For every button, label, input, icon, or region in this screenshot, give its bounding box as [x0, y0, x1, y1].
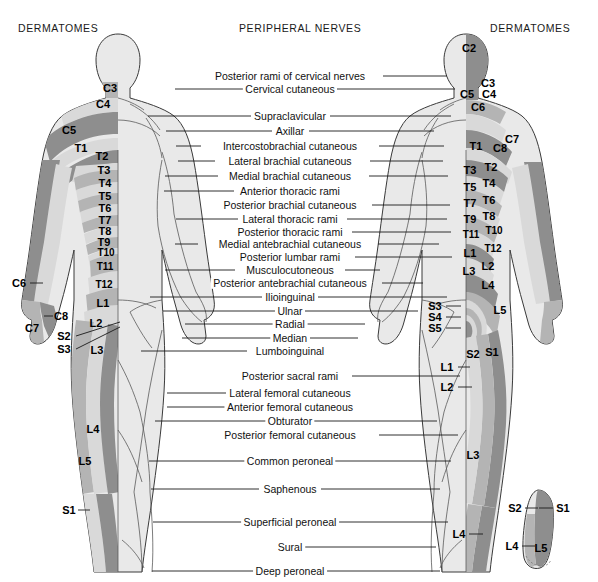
- dermatome-label-left-t3-5: T3: [98, 165, 111, 176]
- nerve-label-obturator: Obturator: [265, 416, 314, 427]
- dermatome-label-right-l1-29: L1: [441, 362, 454, 373]
- dermatome-label-left-t9-11: T9: [98, 237, 111, 248]
- nerve-label-medial-brachial-cutaneous: Medial brachial cutaneous: [227, 171, 354, 182]
- dermatome-label-left-t10-12: T10: [97, 248, 114, 258]
- dermatome-label-right-c5-3: C5: [460, 89, 474, 100]
- dermatome-label-left-l4-23: L4: [87, 424, 100, 435]
- nerve-label-posterior-femoral-cutaneous: Posterior femoral cutaneous: [222, 430, 358, 441]
- nerve-label-posterior-antebrachial-cutaneous: Posterior antebrachial cutaneous: [211, 278, 370, 289]
- nerve-label-lateral-femoral-cutaneous: Lateral femoral cutaneous: [227, 388, 353, 399]
- dermatome-label-left-t4-6: T4: [99, 178, 112, 189]
- dermatome-label-right-l3-20: L3: [463, 266, 476, 277]
- dermatome-label-left-l5-24: L5: [79, 456, 92, 467]
- dermatome-label-right-l4-32: L4: [453, 529, 466, 540]
- dermatome-label-foot-s1-1: S1: [556, 503, 569, 514]
- nerve-label-anterior-thoracic-rami: Anterior thoracic rami: [238, 186, 343, 197]
- nerve-label-cervical-cutaneous: Cervical cutaneous: [243, 84, 337, 95]
- dermatome-label-foot-s2-0: S2: [508, 503, 521, 514]
- dermatome-label-right-t10-17: T10: [485, 226, 502, 236]
- nerve-label-posterior-brachial-cutaneous: Posterior brachial cutaneous: [221, 200, 359, 211]
- dermatome-label-left-t11-13: T11: [97, 262, 114, 272]
- dermatome-label-left-c5-2: C5: [62, 125, 76, 136]
- dermatome-label-right-s2-27: S2: [466, 349, 479, 360]
- nerve-label-posterior-lumbar-rami: Posterior lumbar rami: [237, 252, 342, 263]
- header-dermatomes-left: DERMATOMES: [18, 22, 98, 34]
- dermatome-label-right-c4-2: C4: [482, 89, 496, 100]
- dermatome-label-right-s1-28: S1: [485, 347, 498, 358]
- dermatome-label-right-t11-16: T11: [463, 230, 480, 240]
- dermatome-label-right-l4-22: L4: [482, 280, 495, 291]
- dermatome-label-left-s3-21: S3: [57, 344, 70, 355]
- nerve-label-axillar: Axillar: [273, 126, 307, 137]
- nerve-label-musculocutoneous: Musculocutoneous: [244, 265, 337, 276]
- dermatome-label-right-c6-4: C6: [471, 102, 485, 113]
- nerve-label-supraclavicular: Supraclavicular: [252, 111, 329, 122]
- dermatome-label-left-t1-3: T1: [75, 143, 88, 154]
- dermatome-label-right-l2-30: L2: [441, 382, 454, 393]
- nerve-label-lateral-brachial-cutaneous: Lateral brachial cutaneous: [226, 156, 354, 167]
- dermatome-label-right-t4-11: T4: [483, 178, 496, 189]
- nerve-label-radial: Radial: [273, 319, 308, 330]
- nerve-label-ulnar: Ulnar: [275, 306, 305, 317]
- dermatome-label-right-c8-7: C8: [493, 143, 507, 154]
- header-dermatomes-right: DERMATOMES: [490, 22, 570, 34]
- dermatome-label-left-s1-25: S1: [62, 505, 75, 516]
- dermatome-label-left-c6-15: C6: [12, 278, 26, 289]
- nerve-label-posterior-rami-of-cervical-nerves: Posterior rami of cervical nerves: [213, 71, 368, 82]
- dermatome-label-right-s5-26: S5: [428, 323, 441, 334]
- dermatome-label-left-c8-16: C8: [54, 311, 68, 322]
- dermatome-label-left-l2-19: L2: [90, 318, 103, 329]
- dermatome-label-foot-l5-3: L5: [535, 543, 548, 554]
- nerve-label-posterior-sacral-rami: Posterior sacral rami: [239, 371, 340, 382]
- nerve-label-ilioinguinal: Ilioinguinal: [263, 292, 318, 303]
- dermatome-label-right-t3-8: T3: [464, 165, 477, 176]
- header-peripheral-nerves: PERIPHERAL NERVES: [239, 22, 361, 34]
- dermatome-label-left-t6-8: T6: [99, 203, 112, 214]
- dermatome-label-right-t6-13: T6: [483, 195, 496, 206]
- dermatome-label-left-t12-14: T12: [95, 280, 112, 290]
- dermatome-label-right-l5-23: L5: [494, 305, 507, 316]
- nerve-label-intercostobrachial-cutaneous: Intercostobrachial cutaneous: [220, 141, 359, 152]
- dermatome-label-right-t1-6: T1: [470, 141, 483, 152]
- dermatome-label-right-c7-5: C7: [505, 134, 519, 145]
- nerve-label-saphenous: Saphenous: [261, 484, 319, 495]
- nerve-label-sural: Sural: [275, 542, 305, 553]
- dermatome-label-left-t2-4: T2: [96, 151, 109, 162]
- nerve-label-deep-peroneal: Deep peroneal: [253, 566, 327, 577]
- dermatome-peripheral-nerve-diagram: DERMATOMES PERIPHERAL NERVES DERMATOMES …: [0, 0, 598, 582]
- dermatome-label-right-t7-12: T7: [464, 198, 477, 209]
- dermatome-label-foot-l4-2: L4: [506, 541, 519, 552]
- nerve-label-lateral-thoracic-rami: Lateral thoracic rami: [240, 214, 340, 225]
- dermatome-label-left-l3-22: L3: [91, 345, 104, 356]
- dermatome-label-left-l1-18: L1: [97, 298, 110, 309]
- posterior-body-figure: [370, 34, 563, 572]
- anterior-body-figure: [22, 34, 215, 572]
- dermatome-label-left-t5-7: T5: [99, 191, 112, 202]
- nerve-label-superficial-peroneal: Superficial peroneal: [241, 517, 339, 528]
- dermatome-label-left-c7-17: C7: [25, 323, 39, 334]
- dermatome-label-right-l3-31: L3: [467, 450, 480, 461]
- dermatome-label-right-t9-14: T9: [464, 214, 477, 225]
- dermatome-label-right-t8-15: T8: [483, 211, 496, 222]
- nerve-label-posterior-thoracic-rami: Posterior thoracic rami: [235, 227, 345, 238]
- dermatome-label-right-t5-10: T5: [464, 182, 477, 193]
- dermatome-label-right-t2-9: T2: [485, 162, 498, 173]
- dermatome-label-right-c2-0: C2: [462, 43, 476, 54]
- dermatome-label-left-c4-1: C4: [96, 99, 110, 110]
- dermatome-label-left-c3-0: C3: [103, 83, 117, 94]
- nerve-label-medial-antebrachial-cutaneous: Medial antebrachial cutaneous: [216, 239, 363, 250]
- dermatome-label-left-s2-20: S2: [57, 331, 70, 342]
- dermatome-label-right-l1-18: L1: [464, 248, 477, 259]
- nerve-label-lumboinguinal: Lumboinguinal: [253, 346, 326, 357]
- nerve-label-anterior-femoral-cutaneous: Anterior femoral cutaneous: [224, 402, 355, 413]
- nerve-label-common-peroneal: Common peroneal: [244, 456, 335, 467]
- dermatome-label-right-t12-19: T12: [484, 244, 501, 254]
- nerve-label-median: Median: [270, 333, 309, 344]
- dermatome-label-right-l2-21: L2: [482, 261, 495, 272]
- plantar-foot-inset: [523, 490, 553, 569]
